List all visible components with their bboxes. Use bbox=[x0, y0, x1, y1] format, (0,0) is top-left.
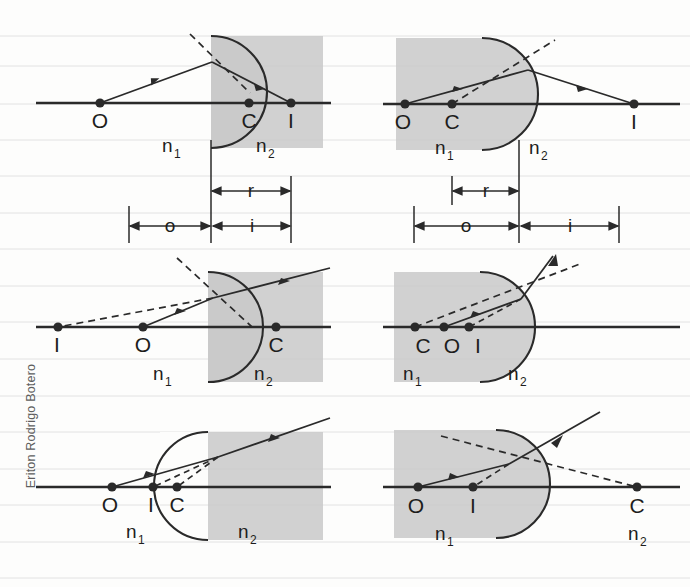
label-n2: n bbox=[628, 523, 639, 544]
point-image-I bbox=[464, 322, 473, 331]
label-C: C bbox=[629, 494, 644, 517]
label-n1: n bbox=[435, 523, 446, 544]
label-O: O bbox=[102, 493, 118, 516]
label-I: I bbox=[288, 109, 294, 132]
label-n1-subscript: 1 bbox=[415, 375, 422, 389]
point-image-I bbox=[629, 99, 638, 108]
label-O: O bbox=[395, 110, 411, 133]
label-O: O bbox=[135, 333, 151, 356]
point-center-C bbox=[172, 482, 181, 491]
label-I: I bbox=[475, 334, 481, 357]
label-n2-subscript: 2 bbox=[266, 375, 273, 389]
label-n1: n bbox=[403, 363, 414, 384]
label-C: C bbox=[268, 333, 283, 356]
label-O: O bbox=[408, 494, 424, 517]
label-n2-subscript: 2 bbox=[520, 375, 527, 389]
label-n2-subscript: 2 bbox=[640, 535, 647, 549]
point-image-I bbox=[286, 98, 295, 107]
virtual-ray-extension bbox=[58, 298, 213, 327]
label-C: C bbox=[169, 493, 184, 516]
dimension-label-i: i bbox=[568, 215, 572, 236]
label-n2-subscript: 2 bbox=[268, 147, 275, 161]
figure-page: Eriton Rodrigo Botero bbox=[0, 0, 690, 587]
point-object-O bbox=[413, 482, 422, 491]
label-I: I bbox=[148, 493, 154, 516]
optics-figure: O C I n 1 n 2 r o i bbox=[0, 0, 690, 587]
dimension-label-o: o bbox=[165, 215, 176, 236]
refracted-ray-arrowhead bbox=[576, 85, 588, 92]
incident-ray bbox=[100, 62, 212, 103]
label-n1: n bbox=[162, 135, 173, 156]
point-image-I bbox=[53, 322, 62, 331]
label-O: O bbox=[444, 334, 460, 357]
point-center-C bbox=[244, 98, 253, 107]
dimension-label-r: r bbox=[248, 180, 255, 201]
point-object-O bbox=[439, 322, 448, 331]
panel-top-left: O C I n 1 n 2 r o i bbox=[36, 34, 331, 243]
label-n2: n bbox=[508, 363, 519, 384]
label-n1-subscript: 1 bbox=[447, 149, 454, 163]
label-I: I bbox=[54, 333, 60, 356]
label-n2-subscript: 2 bbox=[250, 533, 257, 547]
point-image-I bbox=[468, 482, 477, 491]
label-n2: n bbox=[256, 135, 267, 156]
incident-ray bbox=[112, 457, 218, 487]
label-C: C bbox=[241, 109, 256, 132]
label-n2-subscript: 2 bbox=[541, 149, 548, 163]
label-n1-subscript: 1 bbox=[138, 533, 145, 547]
label-n2: n bbox=[238, 521, 249, 542]
label-C: C bbox=[415, 334, 430, 357]
dimension-label-i: i bbox=[250, 215, 254, 236]
panel-middle-right: C O I n 1 n 2 bbox=[383, 254, 680, 389]
label-n1: n bbox=[126, 521, 137, 542]
point-object-O bbox=[400, 99, 409, 108]
point-object-O bbox=[95, 98, 104, 107]
sphere-fill bbox=[482, 38, 538, 150]
label-O: O bbox=[92, 109, 108, 132]
point-center-C bbox=[447, 99, 456, 108]
point-object-O bbox=[138, 322, 147, 331]
panel-top-right: O C I n 1 n 2 r o i bbox=[383, 38, 680, 243]
label-n1-subscript: 1 bbox=[447, 535, 454, 549]
point-object-O bbox=[107, 482, 116, 491]
panel-bottom-left: O I C n 1 n 2 bbox=[36, 418, 331, 547]
label-n1: n bbox=[435, 137, 446, 158]
dimension-label-r: r bbox=[483, 180, 490, 201]
label-n1: n bbox=[153, 363, 164, 384]
point-center-C bbox=[271, 322, 280, 331]
label-I: I bbox=[470, 494, 476, 517]
label-n1-subscript: 1 bbox=[165, 375, 172, 389]
panel-bottom-right: O I C n 1 n 2 bbox=[383, 412, 680, 549]
label-C: C bbox=[444, 110, 459, 133]
point-image-I bbox=[148, 482, 157, 491]
label-I: I bbox=[631, 110, 637, 133]
label-n2: n bbox=[254, 363, 265, 384]
label-n2: n bbox=[529, 137, 540, 158]
point-center-C bbox=[410, 322, 419, 331]
panel-middle-left: I O C n 1 n 2 bbox=[36, 258, 331, 389]
label-n1-subscript: 1 bbox=[174, 147, 181, 161]
refracted-ray bbox=[521, 256, 553, 299]
dimension-label-o: o bbox=[461, 215, 472, 236]
point-center-C bbox=[632, 482, 641, 491]
